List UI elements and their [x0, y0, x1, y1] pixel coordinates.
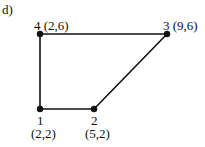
node-1 — [37, 106, 43, 112]
node-3-label: 3 (9,6) — [163, 19, 198, 32]
edge-2-3 — [94, 34, 167, 109]
node-4-label: 4 (2,6) — [34, 19, 69, 32]
node-1-coord: (2,2) — [31, 127, 56, 140]
node-2 — [91, 106, 97, 112]
node-2-coord: (5,2) — [85, 127, 110, 140]
